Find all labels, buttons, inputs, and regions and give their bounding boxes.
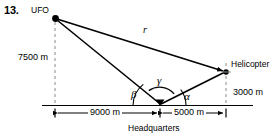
figure-drawing [0, 0, 274, 138]
headquarters-label: Headquarters [128, 124, 180, 133]
line-headquarters-helicopter [161, 72, 225, 104]
angle-alpha-label: α [184, 91, 190, 102]
helicopter-altitude-label: 3000 m [233, 88, 263, 97]
ufo-altitude-label: 7500 m [18, 53, 48, 62]
range-variable-label: r [143, 25, 147, 35]
ufo-ground-distance-label: 9000 m [88, 108, 122, 117]
range-line-ufo-helicopter [57, 19, 223, 71]
helicopter-ground-distance-label: 5000 m [172, 108, 206, 117]
angle-gamma-label: γ [157, 75, 161, 86]
problem-number: 13. [4, 5, 19, 16]
ufo-point-marker [52, 15, 59, 22]
angle-beta-label: β [131, 89, 136, 100]
geometry-figure: 13. UFO Helicopter Headquarters 7500 m 3… [0, 0, 274, 138]
helicopter-label: Helicopter [231, 60, 269, 69]
angle-arc-gamma [149, 87, 174, 94]
ufo-label: UFO [31, 6, 49, 15]
